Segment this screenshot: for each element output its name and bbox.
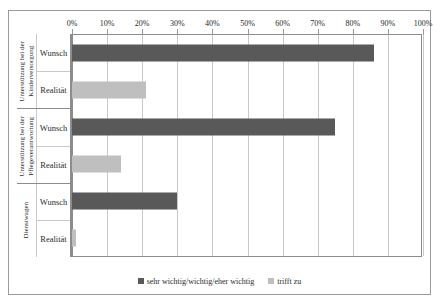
bar xyxy=(72,229,76,246)
category-group: Unterstützung bei der Pflegeverantwortun… xyxy=(17,108,70,182)
category-bar-label: Realität xyxy=(37,71,70,108)
bar xyxy=(72,155,121,172)
bar-row xyxy=(72,182,421,219)
legend-swatch-icon xyxy=(268,278,274,284)
gridline xyxy=(423,35,424,256)
bar-rows xyxy=(72,35,421,256)
category-sub-labels: WunschRealität xyxy=(37,109,70,182)
bar xyxy=(72,45,374,62)
legend-label: sehr wichtig/wichtig/eher wichtig xyxy=(147,277,255,286)
bar-row xyxy=(72,145,421,182)
bar xyxy=(72,82,146,99)
bar-row xyxy=(72,219,421,256)
legend-label: trifft zu xyxy=(277,277,301,286)
category-group: DienstwagenWunschRealität xyxy=(17,183,70,257)
chart-frame: 0%10%20%30%40%50%60%70%80%90%100% Unters… xyxy=(8,10,431,295)
category-group-label-text: Unterstützung bei der Pflegeverantwortun… xyxy=(18,116,35,177)
category-bar-label: Wunsch xyxy=(37,184,70,221)
category-sub-labels: WunschRealität xyxy=(37,184,70,257)
bar xyxy=(72,119,335,136)
legend-item: sehr wichtig/wichtig/eher wichtig xyxy=(138,277,255,286)
category-bar-label: Realität xyxy=(37,220,70,257)
bar-row xyxy=(72,35,421,72)
category-group-label-text: Unterstützung bei der Kinderversorgung xyxy=(18,41,35,102)
plot-area xyxy=(71,34,422,257)
chart-legend: sehr wichtig/wichtig/eher wichtigtrifft … xyxy=(9,274,430,288)
bar-row xyxy=(72,109,421,146)
category-bar-label: Wunsch xyxy=(37,109,70,146)
category-group-label: Unterstützung bei der Pflegeverantwortun… xyxy=(17,109,37,182)
category-group-label-text: Dienstwagen xyxy=(22,202,31,239)
bar xyxy=(72,192,177,209)
category-group-label: Unterstützung bei der Kinderversorgung xyxy=(17,34,37,108)
category-sub-labels: WunschRealität xyxy=(37,34,70,108)
legend-swatch-icon xyxy=(138,278,144,284)
bar-row xyxy=(72,72,421,109)
category-bar-label: Realität xyxy=(37,146,70,183)
category-bar-label: Wunsch xyxy=(37,34,70,71)
category-axis: Unterstützung bei der KinderversorgungWu… xyxy=(17,34,71,257)
category-group-label: Dienstwagen xyxy=(17,184,37,257)
legend-item: trifft zu xyxy=(268,277,301,286)
category-group: Unterstützung bei der KinderversorgungWu… xyxy=(17,34,70,108)
